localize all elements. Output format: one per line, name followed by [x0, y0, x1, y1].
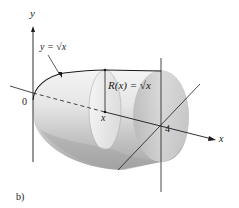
x-end-label: 4 — [165, 124, 170, 134]
curve-label: y = √x — [40, 42, 66, 52]
figure-caption: b) — [16, 192, 24, 202]
y-axis-arrow — [31, 26, 35, 32]
x-axis-arrow — [208, 136, 216, 141]
solid-of-revolution-diagram — [0, 0, 239, 208]
x-axis-label: x — [219, 134, 223, 144]
y-axis-label: y — [30, 8, 35, 19]
x-axis-hidden — [10, 86, 33, 93]
origin-label: 0 — [22, 97, 27, 107]
radius-label: R(x) = √x — [108, 80, 151, 91]
x-point-label: x — [101, 113, 105, 123]
